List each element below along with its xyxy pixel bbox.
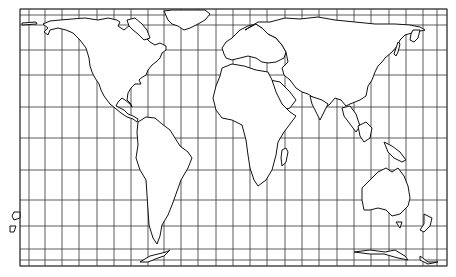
new-zealand (420, 214, 432, 232)
tasmania (396, 222, 402, 228)
world-map (0, 0, 456, 277)
madagascar (281, 148, 288, 166)
africa (213, 64, 296, 186)
southeast-asia (342, 106, 360, 132)
greenland (164, 10, 210, 30)
pacific-island-small (10, 226, 16, 232)
aleutian-islands (22, 22, 37, 25)
indonesia (358, 122, 372, 142)
antarctica-east (354, 250, 408, 260)
new-guinea (384, 142, 406, 162)
pacific-islands (12, 212, 20, 220)
australia (362, 168, 410, 216)
